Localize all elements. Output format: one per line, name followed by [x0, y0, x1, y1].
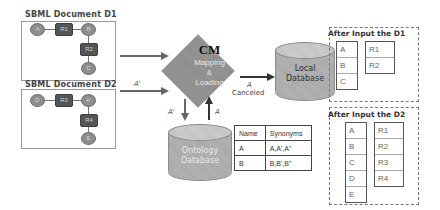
ontology-database: Ontology Database	[168, 124, 232, 184]
d1-node-b: B	[81, 23, 96, 36]
reaction-cell: R1	[375, 123, 403, 139]
local-db-line2: Database	[275, 74, 335, 84]
after-d2-reactions-column: R1 R2 R3 R4	[374, 122, 404, 187]
reaction-cell: R3	[375, 155, 403, 171]
after-d1-reactions-column: R1 R2	[365, 41, 395, 74]
d2-node-a-prime: A'	[81, 94, 96, 107]
synonym-table: Name Synonyms A A,A',A'' B B,B',B''	[234, 125, 312, 171]
d1-link	[73, 29, 81, 30]
arrow-head-icon	[205, 96, 213, 104]
arrow-head-icon	[267, 73, 275, 81]
local-database: Local Database	[275, 42, 335, 102]
d2-link	[45, 100, 55, 101]
d1-link	[45, 29, 55, 30]
cm-line-loading: Loading	[172, 78, 247, 88]
reaction-cell: R2	[366, 58, 394, 73]
reaction-cell: R4	[375, 171, 403, 186]
d2-to-cm-arrow	[120, 90, 162, 92]
table-row: B B,B',B''	[235, 156, 312, 171]
species-cell: A	[337, 42, 357, 58]
ontology-to-cm-label: A	[215, 108, 220, 116]
table-row: A A,A',A''	[235, 141, 312, 156]
ontology-to-cm-arrow	[208, 103, 210, 120]
d2-to-cm-label: A'	[134, 80, 141, 88]
d2-link	[88, 107, 89, 114]
header-name: Name	[235, 126, 266, 141]
cell-synonyms: A,A',A''	[265, 141, 311, 156]
after-d2-title: After Input the D2	[328, 110, 405, 119]
cm-to-local-label: A	[247, 81, 252, 89]
arrow-head-icon	[161, 52, 169, 60]
d2-node-e: E	[81, 132, 96, 145]
ontology-db-line1: Ontology	[168, 146, 232, 156]
cm-title: CM	[172, 42, 247, 58]
table-header-row: Name Synonyms	[235, 126, 312, 141]
species-cell: B	[337, 58, 357, 74]
d1-reaction-r2: R2	[80, 43, 98, 56]
d1-node-a: A	[30, 23, 45, 36]
reaction-cell: R2	[375, 139, 403, 155]
cm-to-ontology-label: A'	[168, 108, 175, 116]
header-synonyms: Synonyms	[265, 126, 311, 141]
d2-link	[73, 100, 81, 101]
d2-node-d: D	[30, 94, 45, 107]
doc-d1-title: SBML Document D1	[25, 10, 117, 19]
after-d1-title: After Input the D1	[328, 29, 405, 38]
arrow-head-icon	[161, 87, 169, 95]
d1-reaction-r1: R1	[55, 23, 73, 36]
after-d2-species-column: A B C D E	[345, 122, 367, 203]
species-cell: C	[337, 74, 357, 89]
reaction-cell: R1	[366, 42, 394, 58]
cm-to-ontology-arrow	[184, 99, 186, 114]
ontology-db-line2: Database	[168, 156, 232, 166]
d1-to-cm-arrow	[120, 55, 162, 57]
canceled-label: Canceled	[232, 89, 264, 97]
cm-line-amp: &	[172, 68, 247, 78]
d2-reaction-r3: R3	[55, 94, 73, 107]
d2-reaction-r4: R4	[80, 114, 98, 127]
cell-synonyms: B,B',B''	[265, 156, 311, 171]
cm-line-mapping: Mapping	[172, 58, 247, 68]
local-db-line1: Local	[275, 64, 335, 74]
cm-to-local-arrow	[240, 76, 268, 78]
doc-d2-title: SBML Document D2	[25, 80, 117, 89]
d1-node-c: C	[81, 62, 96, 75]
after-d1-species-column: A B C	[336, 41, 358, 90]
cell-name: A	[235, 141, 266, 156]
species-cell: E	[346, 187, 366, 202]
species-cell: D	[346, 171, 366, 187]
arrow-head-icon	[181, 113, 189, 121]
cm-label-group: CM Mapping & Loading	[172, 42, 247, 88]
species-cell: A	[346, 123, 366, 139]
species-cell: B	[346, 139, 366, 155]
cell-name: B	[235, 156, 266, 171]
species-cell: C	[346, 155, 366, 171]
